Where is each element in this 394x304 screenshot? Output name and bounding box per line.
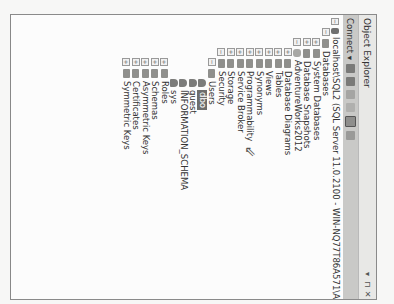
expand-icon[interactable]: + [160, 58, 168, 66]
collapse-icon[interactable]: − [217, 48, 225, 56]
user-icon [189, 79, 197, 87]
panel-titlebar: Object Explorer ▾ ⊓ ✕ [358, 15, 376, 299]
expand-icon[interactable]: + [265, 48, 273, 56]
tree-node[interactable]: +Schemas [150, 15, 160, 299]
rotated-screen: Object Explorer ▾ ⊓ ✕ Connect ▾ −localho… [0, 0, 394, 304]
disconnect-icon[interactable] [346, 77, 355, 86]
tree-node[interactable]: +Database Diagrams [283, 15, 293, 299]
tree-node[interactable]: −Security [217, 15, 227, 299]
folder-icon [208, 69, 215, 78]
folder-icon [246, 59, 253, 68]
expand-icon[interactable]: + [151, 58, 159, 66]
tree-node-label[interactable]: Views [264, 71, 274, 96]
tree-node-label[interactable]: Tables [274, 71, 284, 97]
folder-icon [303, 49, 310, 58]
tree-node-label[interactable]: System Databases [312, 61, 322, 140]
tree-node[interactable]: −Databases [321, 15, 331, 299]
tree-node-label[interactable]: Certificates [131, 81, 141, 130]
tree-node-label[interactable]: Symmetric Keys [122, 81, 132, 150]
folder-icon [218, 59, 225, 68]
collapse-icon[interactable]: − [293, 38, 301, 46]
filter-icon[interactable] [346, 103, 355, 112]
tree-node-label[interactable]: guest [188, 90, 198, 114]
user-icon [170, 79, 178, 87]
tree-node[interactable]: +System Databases [312, 15, 322, 299]
collapse-icon[interactable]: − [208, 58, 216, 66]
tree-node[interactable]: +Asymmetric Keys [141, 15, 151, 299]
activity-monitor-icon[interactable] [346, 131, 355, 140]
refresh-icon[interactable] [345, 116, 356, 127]
folder-icon [161, 69, 168, 78]
expand-icon[interactable]: + [227, 48, 235, 56]
mouse-cursor-icon: ⇖ [244, 143, 256, 159]
tree-node-label[interactable]: Users [207, 81, 217, 105]
tree-node[interactable]: +Symmetric Keys [122, 15, 132, 299]
tree-node-label[interactable]: Security [217, 71, 227, 106]
tree-node[interactable]: −localhost\SQL2 (SQL Server 11.0.2100 - … [331, 15, 341, 299]
tree-node-label[interactable]: sys [169, 90, 179, 104]
folder-icon [284, 59, 291, 68]
db-icon [293, 49, 301, 57]
expand-icon[interactable]: + [141, 58, 149, 66]
folder-icon [322, 39, 329, 48]
tree-node-label[interactable]: Roles [160, 81, 170, 104]
tree-node[interactable]: guest [188, 15, 198, 299]
expand-icon[interactable]: + [312, 38, 320, 46]
expand-icon[interactable]: + [284, 48, 292, 56]
tree-node[interactable]: −AdventureWorks2012 [293, 15, 303, 299]
user-icon [179, 79, 187, 87]
pin-icon[interactable]: ⊓ [363, 279, 372, 289]
object-tree: −localhost\SQL2 (SQL Server 11.0.2100 - … [122, 15, 341, 299]
expand-icon[interactable]: + [236, 48, 244, 56]
tree-node-label[interactable]: Database Snapshots [302, 61, 312, 148]
tree-node[interactable]: +Roles [160, 15, 170, 299]
tree-node-label[interactable]: Service Broker [236, 71, 246, 133]
tree-node-label[interactable]: Database Diagrams [283, 71, 293, 155]
tree-node[interactable]: dbo [198, 15, 208, 299]
folder-icon [265, 59, 272, 68]
folder-icon [142, 69, 149, 78]
tree-node[interactable]: −Users [207, 15, 217, 299]
tree-node-label[interactable]: Programmability [245, 71, 255, 141]
window-position-icon[interactable]: ▾ [363, 269, 372, 279]
close-icon[interactable]: ✕ [363, 289, 372, 299]
tree-node[interactable]: +Synonyms [255, 15, 265, 299]
tree-node-label[interactable]: INFORMATION_SCHEMA [179, 90, 189, 190]
tree-node[interactable]: +Certificates [131, 15, 141, 299]
collapse-icon[interactable]: − [322, 28, 330, 36]
folder-icon [151, 69, 158, 78]
tree-node[interactable]: +Database Snapshots [302, 15, 312, 299]
tree-node-label[interactable]: Schemas [150, 81, 160, 120]
tree-node[interactable]: +Views [264, 15, 274, 299]
collapse-icon[interactable]: − [331, 18, 339, 25]
connect-object-explorer-icon[interactable] [346, 64, 355, 73]
spacer [170, 68, 178, 76]
tree-node-label[interactable]: Synonyms [255, 71, 265, 115]
expand-icon[interactable]: + [255, 48, 263, 56]
tree-node-label[interactable]: Databases [321, 51, 331, 96]
tree-node-label[interactable]: Asymmetric Keys [141, 81, 151, 154]
tree-node[interactable]: INFORMATION_SCHEMA [179, 15, 189, 299]
tree-node-label[interactable]: Storage [226, 71, 236, 104]
expand-icon[interactable]: + [274, 48, 282, 56]
tree-node[interactable]: +Storage [226, 15, 236, 299]
tree-node-label[interactable]: dbo [198, 90, 208, 110]
expand-icon[interactable]: + [246, 48, 254, 56]
tree-node[interactable]: +Tables [274, 15, 284, 299]
stop-icon[interactable] [346, 90, 355, 99]
explorer-toolbar: Connect ▾ [343, 15, 358, 299]
tree-node[interactable]: sys [169, 15, 179, 299]
tree-node-label[interactable]: localhost\SQL2 (SQL Server 11.0.2100 - W… [331, 37, 341, 299]
expand-icon[interactable]: + [122, 58, 130, 66]
spacer [189, 68, 197, 76]
object-explorer-panel: Object Explorer ▾ ⊓ ✕ Connect ▾ −localho… [10, 14, 377, 300]
expand-icon[interactable]: + [132, 58, 140, 66]
divider [10, 14, 11, 299]
expand-icon[interactable]: + [303, 38, 311, 46]
folder-icon [313, 49, 320, 58]
folder-icon [237, 59, 244, 68]
folder-icon [275, 59, 282, 68]
connect-button[interactable]: Connect ▾ [346, 18, 356, 60]
panel-title: Object Explorer [363, 15, 373, 269]
tree-node-label[interactable]: AdventureWorks2012 [293, 60, 303, 152]
